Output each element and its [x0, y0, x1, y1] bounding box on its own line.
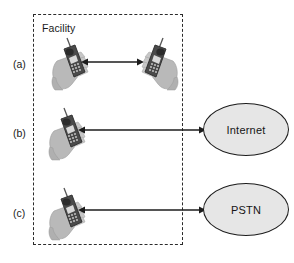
network-node-internet[interactable]: Internet — [203, 103, 289, 156]
mobile-phone-in-hand-icon — [138, 35, 184, 91]
arrow-c-bidirectional — [78, 204, 206, 216]
network-node-internet-label: Internet — [227, 124, 266, 136]
row-label-a: (a) — [13, 58, 26, 70]
arrow-b-bidirectional — [78, 124, 206, 136]
network-node-pstn-label: PSTN — [231, 204, 261, 216]
row-label-b: (b) — [13, 127, 26, 139]
arrow-a-bidirectional — [81, 56, 144, 68]
facility-label: Facility — [42, 22, 75, 34]
figure-canvas: Facility (a) — [0, 0, 294, 263]
row-label-c: (c) — [13, 207, 25, 219]
network-node-pstn[interactable]: PSTN — [203, 183, 289, 236]
